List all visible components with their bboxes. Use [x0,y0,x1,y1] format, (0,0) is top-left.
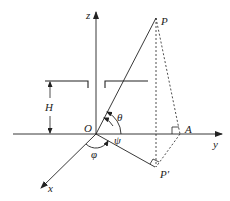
line-op-prime [96,134,155,167]
theta-inner-arc [104,118,113,126]
y-axis-label: y [212,138,218,150]
z-axis-label: z [85,9,91,21]
left-plate [45,81,88,88]
x-axis [41,134,96,188]
point-a-label: A [184,123,192,135]
phi-arc [86,141,108,148]
point-p-prime-label: P′ [159,168,170,180]
coordinate-diagram: z y x O P A P′ H θ ψ φ [0,0,230,201]
origin-label: O [84,122,92,134]
line-pa [156,18,180,134]
psi-label: ψ [114,134,121,146]
point-p-label: P [160,15,168,27]
height-label: H [44,101,54,113]
right-angle-p-prime [150,159,159,164]
line-ap-prime [156,134,180,167]
theta-label: θ [117,111,123,123]
right-angle-a [172,127,179,134]
right-plate [105,81,148,88]
x-axis-label: x [47,182,53,194]
phi-label: φ [91,148,97,160]
line-op [96,18,156,134]
